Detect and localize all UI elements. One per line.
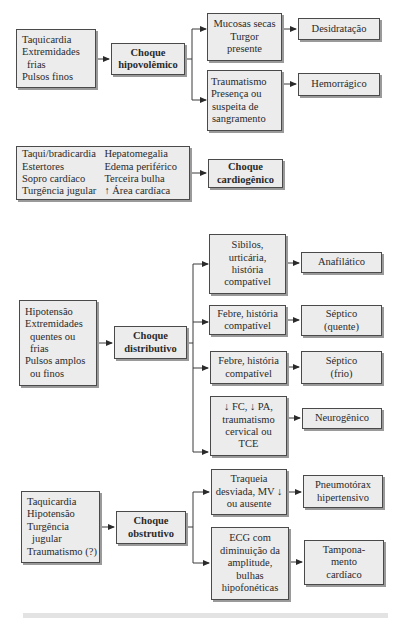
finding: sangramento (211, 113, 281, 125)
finding: cervical ou (225, 426, 271, 438)
finding: compatível (224, 276, 271, 288)
symptom: Extremidades (25, 318, 96, 330)
symptom: Sopro cardíaco (22, 173, 96, 185)
septic-cold-result-box: Séptico (frio) (301, 351, 382, 384)
hypovolemic-symptoms-box: Taquicardia Extremidades frias Pulsos fi… (16, 29, 96, 88)
finding: Mucosas secas (213, 18, 275, 30)
shock-label: Choque (130, 47, 165, 59)
hemorrhagic-findings-box: Traumatismo Presença ou suspeita de sang… (207, 70, 282, 131)
symptoms-column-2: Hepatomegalia Edema periférico Terceira … (104, 148, 177, 198)
symptom: Pulsos amplos (25, 355, 96, 367)
footer-band (23, 613, 388, 618)
distributive-shock-box: Choque distributivo (114, 326, 187, 359)
symptom: ou finos (25, 368, 96, 380)
finding: Traqueia (231, 473, 268, 485)
symptom: Taquicardia (22, 34, 95, 46)
symptom: Edema periférico (104, 161, 177, 173)
distributive-symptoms-box: Hipotensão Extremidades quentes ou frias… (19, 300, 97, 386)
symptom: Extremidades (22, 46, 95, 58)
finding: desviada, MV ↓ (216, 486, 283, 498)
anaphylactic-findings-box: Sibilos, urticária, história compatível (209, 234, 286, 294)
finding: compatível (224, 320, 271, 332)
result-label: Séptico (326, 308, 358, 320)
finding: ↓ FC, ↓ PA, (224, 401, 273, 413)
result-label: (frio) (330, 368, 352, 380)
tamponade-findings-box: ECG com diminuição da amplitude, bulhas … (211, 527, 289, 600)
finding: Febre, história (217, 308, 278, 320)
finding: ECG com (229, 532, 271, 544)
result-label: Séptico (326, 355, 358, 367)
finding: urticária, (229, 252, 267, 264)
result-label: Pneumotórax (315, 479, 371, 491)
result-label: Neurogênico (315, 412, 369, 424)
symptom: Turgência jugular (22, 185, 96, 197)
finding: Turgor (230, 31, 259, 43)
finding: traumatismo (222, 414, 275, 426)
symptom: Pulsos finos (22, 71, 95, 83)
cardiogenic-shock-box: Choque cardiogênico (208, 159, 283, 188)
anaphylactic-result-box: Anafilático (301, 252, 382, 273)
shock-label: distributivo (124, 343, 177, 355)
pneumothorax-findings-box: Traqueia desviada, MV ↓ ou ausente (211, 469, 287, 515)
result-label: hipertensivo (317, 492, 369, 504)
shock-label: Choque (133, 330, 168, 342)
cardiogenic-symptoms-box: Taqui/bradicardia Estertores Sopro cardí… (16, 146, 190, 200)
result-label: (quente) (324, 321, 359, 333)
finding: amplitude, (228, 557, 273, 569)
result-label: cardíaco (326, 569, 362, 581)
hypovolemic-shock-box: Choque hipovolêmico (111, 43, 185, 75)
finding: história (232, 264, 264, 276)
symptoms-column-1: Taqui/bradicardia Estertores Sopro cardí… (22, 148, 96, 198)
septic-warm-result-box: Séptico (quente) (301, 305, 382, 336)
symptom: frias (22, 59, 95, 71)
symptom: frias (25, 343, 96, 355)
finding: compatível (225, 368, 272, 380)
finding: ou ausente (227, 498, 272, 510)
hemorrhagic-result-box: Hemorrágico (298, 73, 380, 96)
shock-label: Choque (228, 161, 263, 173)
tamponade-result-box: Tampona- mento cardíaco (304, 540, 384, 585)
symptom: quentes ou (25, 331, 96, 343)
symptom: ↑ Área cardíaca (104, 185, 177, 197)
septic-cold-findings-box: Febre, história compatível (210, 351, 287, 384)
finding: bulhas (236, 570, 263, 582)
symptom: Traumatismo (?) (27, 546, 99, 558)
symptom: Hipotensão (25, 306, 96, 318)
dehydration-result-box: Desidratação (298, 18, 380, 40)
neurogenic-findings-box: ↓ FC, ↓ PA, traumatismo cervical ou TCE (210, 396, 287, 456)
symptom: Terceira bulha (104, 173, 177, 185)
finding: Traumatismo (211, 76, 281, 88)
symptom: Hipotensão (27, 508, 99, 520)
result-label: Desidratação (312, 23, 367, 35)
result-label: Hemorrágico (311, 78, 366, 90)
result-label: Tampona- (323, 544, 365, 556)
finding: presente (227, 43, 262, 55)
shock-label: obstrutivo (128, 528, 174, 540)
pneumothorax-result-box: Pneumotórax hipertensivo (303, 475, 383, 508)
result-label: Anafilático (318, 256, 365, 268)
finding: Febre, história (218, 355, 279, 367)
finding: Presença ou (211, 88, 281, 100)
result-label: mento (331, 556, 357, 568)
finding: hipofonéticas (222, 582, 279, 594)
finding: TCE (239, 438, 259, 450)
shock-label: hipovolêmico (118, 59, 178, 71)
septic-warm-findings-box: Febre, história compatível (209, 305, 286, 335)
finding: diminuição da (220, 545, 280, 557)
finding: Sibilos, (232, 239, 264, 251)
shock-label: cardiogênico (217, 174, 274, 186)
symptom: Hepatomegalia (104, 148, 177, 160)
symptom: jugular (27, 533, 99, 545)
finding: suspeita de (211, 101, 281, 113)
symptom: Taqui/bradicardia (22, 148, 96, 160)
obstructive-shock-box: Choque obstrutivo (116, 511, 186, 544)
symptom: Turgência (27, 521, 99, 533)
neurogenic-result-box: Neurogênico (302, 408, 382, 429)
symptom: Estertores (22, 161, 96, 173)
shock-label: Choque (133, 515, 168, 527)
symptom: Taquicardia (27, 496, 99, 508)
dehydration-findings-box: Mucosas secas Turgor presente (207, 13, 282, 61)
obstructive-symptoms-box: Taquicardia Hipotensão Turgência jugular… (21, 491, 100, 563)
